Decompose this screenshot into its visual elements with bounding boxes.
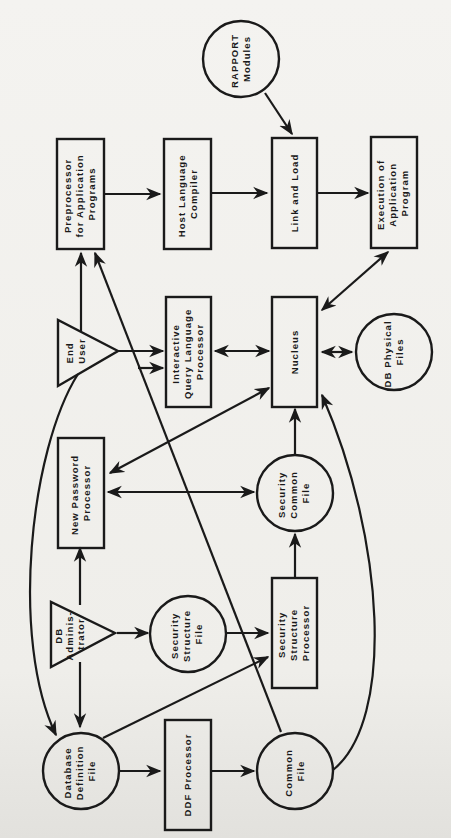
- node-rapport-modules: RAPPORT Modules: [203, 21, 279, 97]
- common-file-label-2: File: [295, 761, 306, 782]
- node-db-administrator: DB Adminis- trator: [51, 602, 115, 667]
- common-file-label-1: Common: [283, 749, 294, 797]
- svg-text:Security Structure: Security Structure Processor: [276, 605, 311, 661]
- ddfile-label-2: Definition: [74, 745, 85, 800]
- link-load-label: Link and Load: [289, 154, 300, 233]
- db-physical-label-2: Files: [394, 338, 405, 365]
- edge-ddfile-to-ssp: [103, 657, 268, 738]
- edge-rapport-to-link: [265, 93, 292, 134]
- svg-text:DB Physical Files: DB Physical Files: [382, 317, 405, 388]
- svg-text:Security Common Fi: Security Common File: [276, 467, 311, 519]
- node-common-file: Common File: [257, 733, 333, 809]
- edge-enduser-to-ddf-file: [30, 374, 78, 735]
- svg-text:Nucleus: Nucleus: [289, 330, 300, 375]
- security-common-label-1: Security: [276, 472, 287, 518]
- edge-nucleus-newpassword: [110, 388, 269, 473]
- iqlp-label-1: Interactive: [170, 324, 181, 384]
- node-database-definition-file: Database Definition File: [43, 733, 119, 809]
- iqlp-label-2: Query Language: [182, 309, 193, 399]
- node-iqlp: Interactive Query Language Processor: [166, 297, 211, 407]
- svg-text:Link and Load: Link and Load: [289, 154, 300, 233]
- node-security-structure-processor: Security Structure Processor: [272, 578, 317, 688]
- preprocessor-label-2: for Application: [74, 154, 85, 237]
- svg-text:Common File: Common File: [283, 745, 306, 797]
- execution-label-2: Application: [387, 163, 398, 227]
- edge-nucleus-execution: [322, 252, 388, 310]
- db-admin-label-3: trator: [75, 618, 86, 649]
- data-flow-diagram: Preprocessor for Application Programs Ho…: [0, 0, 451, 838]
- security-common-label-2: Common: [288, 471, 299, 519]
- ssp-label-1: Security: [276, 612, 287, 658]
- ssf-label-3: File: [193, 624, 204, 645]
- node-link-load: Link and Load: [272, 138, 317, 248]
- execution-label-3: Program: [399, 170, 410, 217]
- end-user-label-1: End: [64, 342, 75, 363]
- diagram-canvas: Preprocessor for Application Programs Ho…: [0, 0, 451, 838]
- node-preprocessor: Preprocessor for Application Programs: [57, 139, 104, 249]
- new-password-label-1: New Password: [69, 455, 80, 535]
- edge-commonfile-to-nucleus: [322, 395, 375, 770]
- ssf-label-2: Structure: [181, 610, 192, 662]
- preprocessor-label-1: Preprocessor: [62, 159, 73, 233]
- compiler-label-2: Compiler: [188, 169, 199, 219]
- node-db-physical-files: DB Physical Files: [356, 314, 432, 390]
- node-nucleus: Nucleus: [272, 297, 317, 407]
- ssf-label-1: Security: [169, 613, 180, 659]
- svg-text:Execution of Application: Execution of Application Program: [375, 156, 410, 230]
- rapport-label-1: RAPPORT: [229, 34, 240, 88]
- db-physical-label-1: DB Physical: [382, 320, 393, 387]
- preprocessor-label-3: Programs: [86, 167, 97, 220]
- rapport-label-2: Modules: [241, 36, 252, 82]
- new-password-label-2: Processor: [81, 465, 92, 521]
- svg-text:New Password Processor: New Password Processor: [69, 451, 92, 535]
- node-new-password-processor: New Password Processor: [58, 438, 104, 548]
- node-end-user: End User: [58, 320, 118, 386]
- svg-text:Interactive Query Langua: Interactive Query Language Processor: [170, 305, 205, 399]
- ssp-label-3: Processor: [300, 605, 311, 661]
- nucleus-label: Nucleus: [289, 330, 300, 375]
- svg-text:RAPPORT Modules: RAPPORT Modules: [229, 30, 252, 88]
- security-common-label-3: File: [300, 483, 311, 504]
- ddf-processor-label: DDF Processor: [182, 734, 193, 817]
- ssp-label-2: Structure: [288, 609, 299, 661]
- node-security-common-file: Security Common File: [257, 455, 333, 531]
- svg-text:Security Structure: Security Structure File: [169, 606, 204, 662]
- svg-text:DDF Processor: DDF Processor: [182, 734, 193, 817]
- iqlp-label-3: Processor: [194, 324, 205, 380]
- execution-label-1: Execution of: [375, 160, 386, 230]
- db-admin-label-1: DB: [53, 628, 64, 644]
- node-execution: Execution of Application Program: [371, 137, 417, 248]
- compiler-label-1: Host Language: [176, 154, 187, 237]
- node-ddf-processor: DDF Processor: [165, 720, 211, 830]
- db-admin-label-2: Adminis-: [64, 611, 75, 660]
- svg-text:Host Language Compiler: Host Language Compiler: [176, 151, 199, 238]
- svg-text:Preprocessor for Applica: Preprocessor for Application Programs: [62, 151, 97, 238]
- node-security-structure-file: Security Structure File: [150, 596, 226, 672]
- ddfile-label-3: File: [86, 761, 97, 782]
- svg-text:Database Definition: Database Definition File: [62, 742, 97, 801]
- end-user-label-2: User: [76, 338, 87, 364]
- ddfile-label-1: Database: [62, 747, 73, 798]
- svg-text:End User: End User: [64, 338, 87, 364]
- node-host-compiler: Host Language Compiler: [164, 139, 211, 249]
